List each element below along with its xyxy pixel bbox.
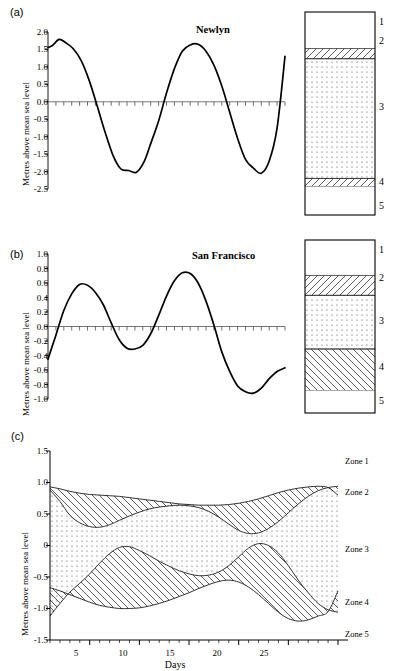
newlyn-zone-num-2: 2 <box>379 35 384 46</box>
newlyn-column <box>295 0 405 228</box>
panel-b-plot <box>0 228 290 424</box>
newlyn-column-wrap: 1 2 3 4 5 <box>295 0 405 228</box>
newlyn-zone-num-5: 5 <box>379 200 384 211</box>
newlyn-zone-num-4: 4 <box>379 176 384 187</box>
sf-zone-num-1: 1 <box>379 244 384 255</box>
sf-zone-num-4: 4 <box>379 361 384 372</box>
panel-a-plot <box>0 0 290 228</box>
panel-b-sanfrancisco: (b) San Francisco Metres above mean sea … <box>0 228 290 424</box>
panel-a-newlyn: (a) Newlyn Metres above mean sea level 2… <box>0 0 290 228</box>
newlyn-zone-num-1: 1 <box>379 16 384 27</box>
sanfrancisco-column-wrap: 1 2 3 4 5 <box>295 228 405 424</box>
sf-zone-num-2: 2 <box>379 272 384 283</box>
sf-zone-num-5: 5 <box>379 395 384 406</box>
panel-c-plot <box>0 424 405 671</box>
newlyn-zone-num-3: 3 <box>379 101 384 112</box>
sanfrancisco-column <box>295 228 405 424</box>
sf-zone-num-3: 3 <box>379 315 384 326</box>
panel-c-zones: (c) Metres above mean sea level 1.5 1.0 … <box>0 424 405 671</box>
